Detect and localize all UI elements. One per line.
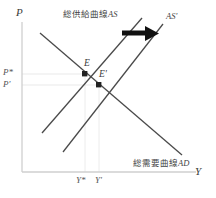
x-axis-label: Y xyxy=(195,166,201,177)
as-shifted-curve-label: AS' xyxy=(166,12,177,21)
y-axis-label: P xyxy=(16,7,23,18)
point-label-e-prime: E' xyxy=(99,70,107,80)
marker-e-prime[interactable] xyxy=(96,82,101,87)
ad-curve-label-jp: 総需要曲線 xyxy=(133,158,178,168)
tick-label-p-star: P* xyxy=(3,68,13,77)
marker-e[interactable] xyxy=(82,71,87,76)
curves xyxy=(40,18,182,155)
tick-label-y-star: Y* xyxy=(76,176,86,185)
tick-label-y-prime: Y' xyxy=(95,176,102,185)
figure-canvas: P Y 総供給曲線AS AS' 総需要曲線AD E E' P* P' Y* Y' xyxy=(0,0,216,198)
ad-curve-label-symbol: AD xyxy=(178,158,189,168)
ad-curve[interactable] xyxy=(40,33,182,155)
ad-curve-label: 総需要曲線AD xyxy=(133,159,189,168)
as-shifted-curve[interactable] xyxy=(63,24,163,152)
guide-lines xyxy=(22,74,99,172)
point-label-e: E xyxy=(84,59,90,69)
shift-arrow-icon xyxy=(122,26,159,41)
tick-label-p-prime: P' xyxy=(3,80,10,89)
as-curve-label-symbol: AS xyxy=(108,9,117,19)
as-curve-label: 総供給曲線AS xyxy=(63,10,117,19)
axes xyxy=(22,22,196,172)
as-curve-label-jp: 総供給曲線 xyxy=(63,9,108,19)
diagram-svg xyxy=(0,0,216,198)
as-shifted-curve-label-symbol: AS' xyxy=(166,11,177,21)
